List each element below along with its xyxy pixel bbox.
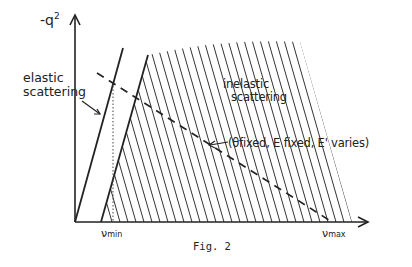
nu-max-subscript: max xyxy=(328,230,345,239)
elastic-label-line1: elastic xyxy=(23,71,86,85)
nu-min-subscript: min xyxy=(107,230,122,239)
y-axis-label-text: -q xyxy=(40,12,54,28)
elastic-pointer-arrow xyxy=(82,101,100,114)
inelastic-threshold-line xyxy=(101,55,148,222)
inelastic-region-hatching xyxy=(60,40,352,222)
figure-caption: Fig. 2 xyxy=(193,240,231,252)
nu-min-label: νmin xyxy=(101,227,122,240)
y-axis-label-exponent: 2 xyxy=(54,11,60,21)
fixed-angle-annotation: (θfixed, E fixed, E' varies) xyxy=(228,136,369,150)
elastic-label-line2: scattering xyxy=(23,85,86,99)
inelastic-scattering-label: inelastic scattering xyxy=(223,78,287,104)
y-axis-label: -q2 xyxy=(40,11,60,28)
nu-max-label: νmax xyxy=(322,227,346,240)
diagram-canvas xyxy=(0,0,412,267)
elastic-scattering-label: elastic scattering xyxy=(23,71,86,99)
inelastic-label-line2: scattering xyxy=(223,91,287,104)
